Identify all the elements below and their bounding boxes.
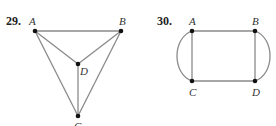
- vertex-d: [253, 79, 258, 84]
- figure-number: 29.: [6, 14, 21, 28]
- edge-bd-curved: [255, 31, 270, 81]
- graph-figures: 29. A B D C 30. A B C D: [0, 0, 276, 126]
- edge-ac: [35, 31, 78, 116]
- figure-30: 30. A B C D: [157, 14, 270, 98]
- vertex-c: [76, 114, 81, 119]
- figure-number: 30.: [157, 14, 172, 28]
- figure-29: 29. A B D C: [6, 14, 126, 126]
- vertex-label-c: C: [74, 120, 82, 126]
- edge-ac-curved: [177, 31, 192, 81]
- vertex-label-b: B: [119, 15, 126, 27]
- vertex-c: [190, 79, 195, 84]
- vertex-label-d: D: [251, 86, 260, 98]
- edge-ad: [35, 31, 78, 64]
- vertex-a: [33, 29, 38, 34]
- edge-bd: [78, 31, 121, 64]
- vertex-b: [253, 29, 258, 34]
- vertex-label-c: C: [189, 86, 197, 98]
- vertex-a: [190, 29, 195, 34]
- vertex-label-d: D: [79, 65, 88, 77]
- vertex-label-b: B: [252, 15, 259, 27]
- vertex-label-a: A: [188, 15, 196, 27]
- vertex-b: [119, 29, 124, 34]
- vertex-label-a: A: [28, 15, 36, 27]
